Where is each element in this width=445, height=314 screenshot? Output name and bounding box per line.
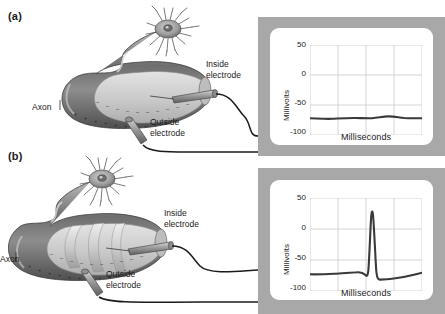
axon-label-b: Axon xyxy=(0,254,19,265)
neuron-diagram-resting-svg: ––– ––– ––– – +++ +++ +++ ++ xyxy=(0,4,265,159)
svg-text:+: + xyxy=(38,267,41,273)
oscilloscope-screen-b: Millivolts 50 0 -50 -100 xyxy=(270,180,433,300)
outside-electrode-label-b: Outside electrode xyxy=(106,269,141,290)
svg-text:+: + xyxy=(48,270,51,276)
figure-neuron-action-potential: (a) (b) xyxy=(0,0,445,314)
depolarization-bands-b xyxy=(65,223,126,273)
svg-text:+: + xyxy=(114,122,117,128)
svg-text:+: + xyxy=(58,272,61,278)
x-axis-title-a: Milliseconds xyxy=(310,132,422,142)
axon-label-a: Axon xyxy=(32,102,51,113)
svg-text:+: + xyxy=(94,118,97,124)
svg-text:+: + xyxy=(144,123,147,129)
oscilloscope-screen-a: Millivolts 50 0 -50 -100 xyxy=(270,28,433,145)
neuron-illustration-a: ––– ––– ––– – +++ +++ +++ ++ xyxy=(0,4,265,159)
svg-text:+: + xyxy=(78,275,81,281)
y-tick-0-b: 0 xyxy=(284,223,306,232)
plot-area-a xyxy=(310,45,422,135)
outside-electrode-label-a: Outside electrode xyxy=(150,117,185,138)
y-tick-neg50-b: -50 xyxy=(280,253,306,262)
svg-text:+: + xyxy=(28,263,31,269)
svg-text:+: + xyxy=(124,123,127,129)
plot-area-b xyxy=(310,198,422,291)
y-tick-neg100-b: -100 xyxy=(276,283,306,292)
x-axis-title-b: Milliseconds xyxy=(310,288,422,298)
oscilloscope-frame-b: Millivolts 50 0 -50 -100 xyxy=(258,168,445,314)
svg-text:+: + xyxy=(68,274,71,280)
chart-resting-potential: Millivolts 50 0 -50 -100 xyxy=(270,28,433,145)
inside-electrode-label-a: Inside electrode xyxy=(206,59,241,80)
axon-body-b xyxy=(8,182,167,280)
soma-dendrites-a xyxy=(146,6,199,56)
soma-dendrites-b xyxy=(80,156,133,206)
oscilloscope-frame-a: Millivolts 50 0 -50 -100 xyxy=(258,17,445,156)
inside-electrode-label-b: Inside electrode xyxy=(164,208,199,229)
y-tick-0-a: 0 xyxy=(284,69,306,78)
y-tick-50-b: 50 xyxy=(284,193,306,202)
neuron-illustration-b: ––– ––– ––– – +++ +++ +++ ++ xyxy=(0,150,265,305)
chart-action-potential: Millivolts 50 0 -50 -100 xyxy=(270,180,433,300)
svg-text:+: + xyxy=(74,111,77,117)
svg-text:+: + xyxy=(104,120,107,126)
y-tick-neg50-a: -50 xyxy=(280,98,306,107)
y-tick-neg100-a: -100 xyxy=(276,127,306,136)
svg-text:+: + xyxy=(84,115,87,121)
y-tick-50-a: 50 xyxy=(284,40,306,49)
svg-text:+: + xyxy=(98,275,101,281)
